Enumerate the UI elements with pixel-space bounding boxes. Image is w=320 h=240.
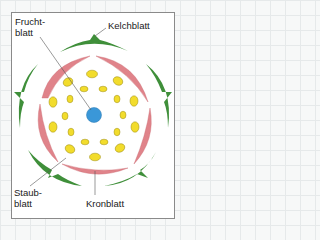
staubblatt [62,76,75,88]
staubblatt [114,128,120,136]
staubblatt [80,86,88,92]
staubblatt [112,75,125,87]
label-kronblatt: Kronblatt [86,199,124,210]
leader-staubblatt [30,158,66,186]
kelchblatt-left [14,64,38,128]
staubblatt [68,128,74,136]
staubblatt [114,95,120,103]
kelchblatt-bottom-right [104,152,156,186]
staubblatt [130,96,138,106]
kronblatt-left [38,104,58,162]
staubblatt [49,97,57,107]
staubblatt [120,111,126,119]
staubblatt [131,122,139,132]
label-kelchblatt: Kelchblatt [108,21,150,32]
leader-fruchtblatt [40,37,91,110]
kelchblatt-top [60,34,128,52]
staubblatt [87,70,98,78]
staubblatt [64,143,77,155]
staubblatt [99,86,107,92]
staubblatt [67,95,73,103]
staubblatt [49,122,57,132]
label-fruchtblatt: Frucht- blatt [15,17,45,38]
label-staubblatt: Staub- blatt [14,188,42,209]
leader-kelchblatt [95,28,106,36]
staubblatt [100,139,108,145]
staubblatt [81,139,89,145]
kronblatt-right [134,108,151,164]
fruchtblatt [87,108,102,123]
staubblatt [114,142,127,154]
staubblatt [90,153,101,161]
staubblatt [62,112,68,120]
